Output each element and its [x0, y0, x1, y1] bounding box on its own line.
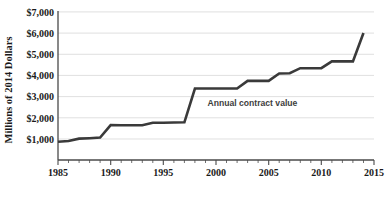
y-tick-label-6000: $6,000: [27, 28, 55, 39]
x-tick-labels: 1985 1990 1995 2000 2005 2010 2015: [48, 167, 384, 178]
x-tick-label-2015: 2015: [364, 167, 384, 178]
series-line-annual-contract-value: [58, 33, 363, 142]
x-tick-label-1985: 1985: [48, 167, 68, 178]
y-tick-labels: $7,000 $6,000 $5,000 $4,000 $3,000 $2,00…: [27, 7, 55, 145]
y-tick-label-7000: $7,000: [27, 7, 55, 18]
y-tick-label-3000: $3,000: [27, 91, 55, 102]
x-tick-label-2010: 2010: [311, 167, 331, 178]
chart-figure: Millions of 2014 Dollars $7,000 $6,000 $…: [0, 0, 387, 197]
annual-contract-value-line-chart: Millions of 2014 Dollars $7,000 $6,000 $…: [0, 0, 387, 197]
x-tick-label-2000: 2000: [206, 167, 226, 178]
x-major-ticks: [58, 160, 374, 165]
y-tick-label-4000: $4,000: [27, 70, 55, 81]
y-tick-label-1000: $1,000: [27, 134, 55, 145]
y-axis-title: Millions of 2014 Dollars: [3, 36, 14, 143]
series-annotation-label: Annual contract value: [208, 98, 298, 108]
x-tick-label-2005: 2005: [259, 167, 279, 178]
x-tick-label-1990: 1990: [101, 167, 121, 178]
y-tick-label-2000: $2,000: [27, 113, 55, 124]
x-tick-label-1995: 1995: [153, 167, 173, 178]
gridlines: [58, 12, 374, 139]
y-tick-label-5000: $5,000: [27, 49, 55, 60]
